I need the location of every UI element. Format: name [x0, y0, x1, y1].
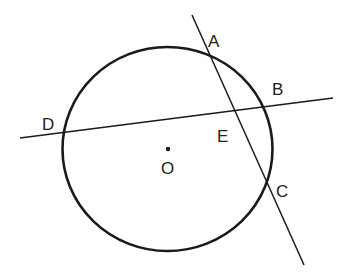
- label-C: C: [276, 182, 288, 201]
- label-B: B: [272, 80, 283, 99]
- label-A: A: [208, 32, 220, 51]
- label-O: O: [161, 159, 174, 178]
- label-D: D: [42, 115, 54, 134]
- label-E: E: [217, 127, 228, 146]
- circle-chords-diagram: A B C D E O: [0, 0, 341, 278]
- line-AC: [192, 15, 304, 265]
- center-point-O: [166, 147, 170, 151]
